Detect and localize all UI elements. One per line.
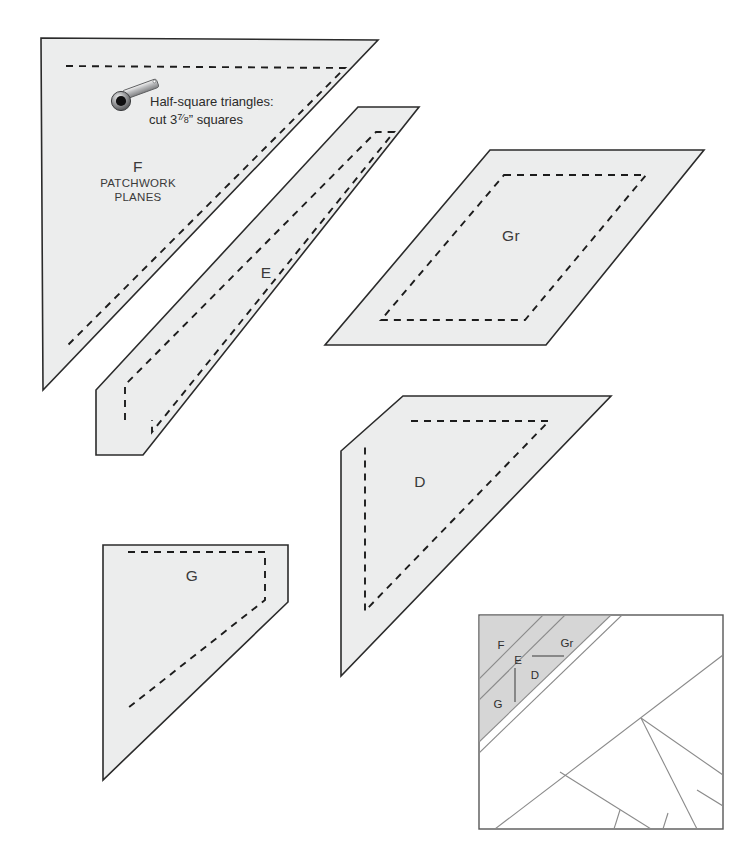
note-line-1: Half-square triangles: (150, 94, 274, 109)
block-label-e: E (514, 654, 522, 666)
pattern-sheet-canvas: F PATCHWORK PLANES (0, 0, 742, 859)
template-e-label: E (261, 264, 272, 281)
block-label-d: D (531, 669, 539, 681)
template-f-label: F (133, 158, 143, 175)
note-cut-suffix: ” squares (189, 112, 244, 127)
template-g-label: G (186, 567, 198, 584)
brand-line-1: PATCHWORK (100, 177, 176, 189)
block-label-f: F (497, 639, 504, 651)
brand-line-2: PLANES (114, 191, 161, 203)
template-piece-g[interactable]: G (103, 545, 288, 780)
template-sheet: F PATCHWORK PLANES (0, 0, 742, 859)
template-piece-gr[interactable]: Gr (325, 150, 704, 345)
pieced-block-diagram[interactable]: F Gr E D G (479, 615, 723, 829)
block-label-gr: Gr (561, 637, 574, 649)
note-cut-prefix: cut 3 (149, 112, 177, 127)
template-d-label: D (414, 473, 426, 490)
block-label-g: G (494, 698, 503, 710)
template-gr-label: Gr (502, 227, 520, 244)
template-gr-fill (325, 150, 704, 345)
note-line-2: cut 37⁄8” squares (149, 112, 243, 128)
